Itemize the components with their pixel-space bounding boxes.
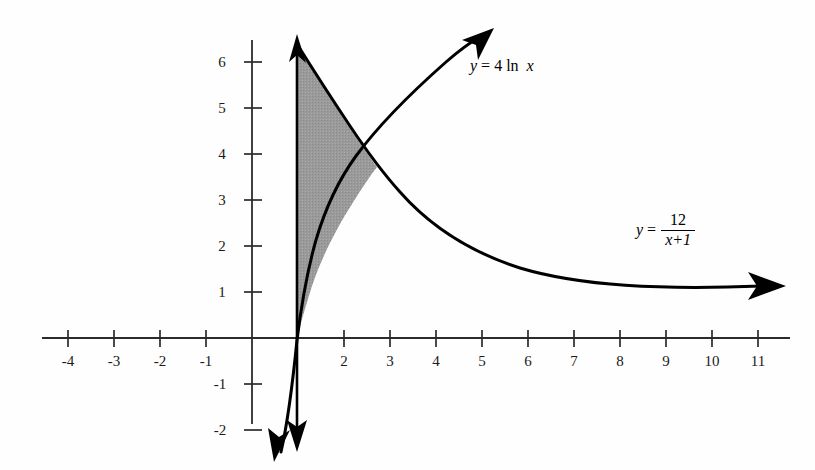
hyp-label-fraction: 12 x+1: [661, 212, 695, 249]
ln-label-y: y: [470, 57, 477, 74]
hyperbola-curve-label: y = 12 x+1: [636, 212, 696, 249]
ln-label-function: ln: [506, 57, 518, 74]
ln-label-coefficient: 4: [494, 57, 502, 74]
x-tick-label: 8: [608, 354, 632, 369]
x-tick-label: 7: [562, 354, 586, 369]
x-tick-label: 9: [654, 354, 678, 369]
x-tick-label: 4: [424, 354, 448, 369]
x-tick-label: 6: [516, 354, 540, 369]
y-tick-label: 3: [210, 193, 234, 208]
x-tick-label: -4: [56, 354, 80, 369]
y-tick-label: 6: [210, 55, 234, 70]
hyp-label-denominator: x+1: [661, 231, 695, 249]
hyp-label-equals: =: [647, 222, 656, 239]
x-tick-label: 5: [470, 354, 494, 369]
y-tick-label: 4: [210, 147, 234, 162]
x-tick-label: 2: [332, 354, 356, 369]
y-tick-label: 2: [210, 239, 234, 254]
x-tick-label: 11: [746, 354, 770, 369]
x-tick-label: -3: [102, 354, 126, 369]
graph-figure: -4 -3 -2 -1 2 3 4 5 6 7 8 9 10 11 6 5 4 …: [0, 0, 815, 470]
y-axis-ticks: [244, 62, 262, 430]
hyp-label-numerator: 12: [661, 212, 695, 231]
hyp-label-y: y: [636, 222, 643, 239]
y-tick-label: 5: [210, 101, 234, 116]
ln-label-equals: =: [481, 57, 490, 74]
x-tick-label: 3: [378, 354, 402, 369]
ln-curve-down-arrow: [268, 428, 290, 462]
ln-curve-label: y = 4 ln x: [470, 58, 534, 75]
x-tick-label: -2: [148, 354, 172, 369]
y-tick-label: -1: [206, 377, 234, 392]
y-tick-label: 1: [210, 285, 234, 300]
ln-label-argument: x: [527, 57, 534, 74]
y-tick-label: -2: [206, 423, 234, 438]
shaded-region-fill: [297, 45, 377, 338]
x-tick-label: -1: [194, 354, 218, 369]
x-tick-label: 10: [700, 354, 724, 369]
